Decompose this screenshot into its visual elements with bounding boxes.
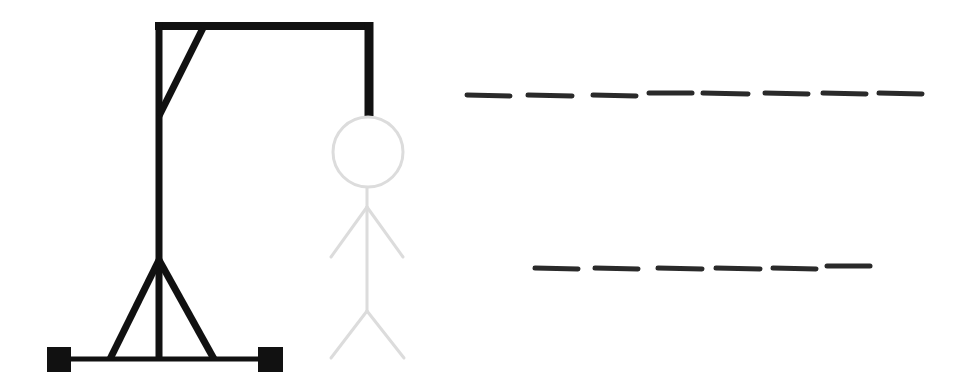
figure-left-arm bbox=[331, 207, 367, 257]
figure-left-leg bbox=[331, 311, 367, 358]
letter-slot bbox=[765, 93, 808, 94]
letter-blank bbox=[716, 268, 760, 269]
letter-blank bbox=[879, 93, 922, 94]
word-1 bbox=[467, 93, 922, 96]
gallows-left-foot bbox=[47, 347, 71, 372]
letter-blank bbox=[535, 268, 578, 269]
letter-blank bbox=[528, 95, 572, 96]
letter-slot bbox=[823, 93, 866, 94]
letter-blank bbox=[703, 93, 748, 94]
gallows-brace bbox=[159, 28, 203, 116]
figure-right-leg bbox=[367, 311, 404, 358]
letter-blank bbox=[823, 93, 866, 94]
gallows-right-support bbox=[159, 260, 214, 359]
letter-blank bbox=[773, 268, 816, 269]
hangman-figure bbox=[331, 117, 404, 358]
gallows-right-foot bbox=[258, 347, 283, 372]
letter-blank bbox=[593, 95, 636, 96]
figure-right-arm bbox=[367, 207, 403, 257]
letter-slot bbox=[716, 268, 760, 269]
letter-slot bbox=[593, 95, 636, 96]
letter-slot bbox=[595, 268, 638, 269]
letter-blank bbox=[467, 95, 510, 96]
letter-slot bbox=[467, 95, 510, 96]
figure-head bbox=[333, 117, 403, 187]
letter-blank bbox=[765, 93, 808, 94]
letter-slot bbox=[528, 95, 572, 96]
letter-slot bbox=[773, 268, 816, 269]
letter-slot bbox=[658, 268, 702, 269]
word-blanks bbox=[467, 93, 922, 269]
letter-blank bbox=[658, 268, 702, 269]
letter-slot bbox=[535, 268, 578, 269]
letter-blank bbox=[595, 268, 638, 269]
gallows-left-support bbox=[110, 260, 159, 359]
hangman-board bbox=[0, 0, 969, 378]
letter-slot bbox=[703, 93, 748, 94]
gallows bbox=[47, 22, 373, 372]
word-2 bbox=[535, 266, 870, 269]
letter-slot bbox=[879, 93, 922, 94]
